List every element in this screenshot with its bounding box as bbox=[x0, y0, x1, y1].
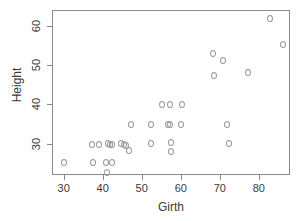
data-point bbox=[226, 140, 232, 147]
x-axis-tick-label: 60 bbox=[168, 182, 194, 194]
data-point bbox=[61, 159, 67, 166]
data-point bbox=[168, 139, 174, 146]
data-point bbox=[159, 101, 165, 108]
x-axis-tick bbox=[259, 175, 260, 180]
x-axis-title: Girth bbox=[52, 200, 290, 214]
y-axis-title: Height bbox=[10, 55, 24, 115]
data-point bbox=[96, 141, 102, 148]
y-axis-tick-label: 50 bbox=[30, 56, 42, 74]
data-point bbox=[128, 121, 134, 128]
y-axis-tick-label: 60 bbox=[30, 17, 42, 35]
data-point bbox=[103, 159, 109, 166]
x-axis-tick bbox=[220, 175, 221, 180]
data-point bbox=[167, 101, 173, 108]
data-point bbox=[148, 140, 154, 147]
data-point bbox=[89, 141, 95, 148]
data-point bbox=[245, 69, 251, 76]
x-axis-tick bbox=[103, 175, 104, 180]
data-point bbox=[109, 141, 115, 148]
x-axis-tick bbox=[181, 175, 182, 180]
scatter-plot: 304050607080 30405060 Girth Height bbox=[0, 0, 304, 221]
y-axis-tick bbox=[47, 104, 52, 105]
data-point bbox=[224, 121, 230, 128]
x-axis-tick-label: 40 bbox=[90, 182, 116, 194]
y-axis-tick-label: 30 bbox=[30, 135, 42, 153]
data-point bbox=[267, 15, 273, 22]
data-point bbox=[211, 72, 217, 79]
y-axis-tick-label: 40 bbox=[30, 95, 42, 113]
data-point bbox=[178, 121, 184, 128]
y-axis-tick bbox=[47, 144, 52, 145]
x-axis-tick bbox=[142, 175, 143, 180]
data-point bbox=[90, 159, 96, 166]
y-axis-tick bbox=[47, 26, 52, 27]
data-point bbox=[168, 148, 174, 155]
data-point bbox=[220, 57, 226, 64]
y-axis-tick bbox=[47, 65, 52, 66]
x-axis-tick-label: 70 bbox=[207, 182, 233, 194]
data-points-layer bbox=[53, 11, 289, 174]
data-point bbox=[104, 169, 110, 176]
x-axis-tick-label: 30 bbox=[51, 182, 77, 194]
plot-frame bbox=[52, 10, 290, 175]
data-point bbox=[109, 159, 115, 166]
data-point bbox=[210, 50, 216, 57]
data-point bbox=[148, 121, 154, 128]
data-point bbox=[280, 41, 286, 48]
data-point bbox=[179, 101, 185, 108]
x-axis-tick-label: 80 bbox=[246, 182, 272, 194]
x-axis-tick bbox=[64, 175, 65, 180]
data-point bbox=[167, 121, 173, 128]
data-point bbox=[126, 147, 132, 154]
x-axis-tick-label: 50 bbox=[129, 182, 155, 194]
